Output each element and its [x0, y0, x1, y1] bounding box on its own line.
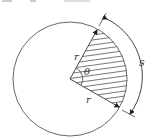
label-arc-length-s: s — [139, 56, 145, 69]
top-cutoff-text — [2, 0, 90, 2]
label-radius-upper: r — [74, 51, 80, 62]
label-angle-theta: θ — [84, 66, 90, 77]
tick-line-upper — [99, 13, 106, 26]
label-radius-lower: r — [86, 94, 92, 105]
tick-line-lower — [122, 110, 135, 117]
sector-diagram: r θ r s — [0, 0, 154, 140]
